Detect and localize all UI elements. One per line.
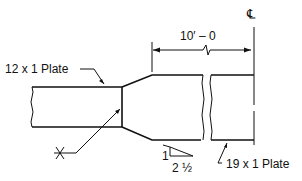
- dimension-label: 10′ – 0: [180, 30, 216, 42]
- mid-break-line-right: [210, 75, 212, 140]
- right-plate-label: 19 x 1 Plate: [226, 158, 289, 170]
- centerline-symbol: ℄: [247, 8, 255, 20]
- left-plate-label: 12 x 1 Plate: [5, 63, 68, 75]
- leader-arrow-right-plate: [224, 143, 227, 148]
- dimension-line: [153, 45, 251, 55]
- slope-triangle: [170, 147, 193, 156]
- right-plate: [211, 75, 254, 140]
- dimension-arrow-right: [244, 48, 251, 53]
- leader-arrow-left-plate: [99, 79, 104, 84]
- diagram-drawing: [0, 0, 302, 181]
- left-break-line: [31, 87, 33, 127]
- mid-break-line-left: [202, 75, 204, 140]
- slope-hypotenuse-ext: [163, 145, 170, 147]
- slope-run-label: 2 ½: [172, 162, 192, 174]
- dimension-arrow-left: [153, 48, 160, 53]
- weld-transition-diagram: ℄ 10′ – 0 12 x 1 Plate 1 2 ½ 19 x 1 Plat…: [0, 0, 302, 181]
- leader-weld: [54, 109, 120, 153]
- taper: [122, 75, 203, 140]
- slope-rise-label: 1: [162, 150, 169, 162]
